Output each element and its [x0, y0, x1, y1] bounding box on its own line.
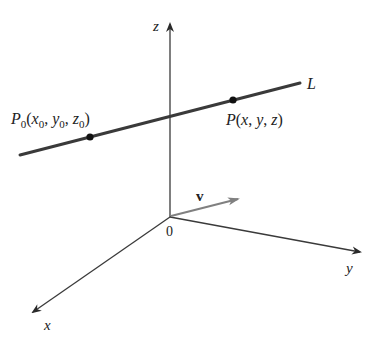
x-axis: [33, 217, 170, 312]
vector-v-arrow: [171, 199, 238, 216]
p0-name: P: [10, 110, 21, 127]
p-comma-1: ,: [248, 111, 256, 128]
line-L-label: L: [306, 75, 316, 92]
p0-close-paren: ): [85, 110, 90, 128]
p-x: x: [240, 111, 248, 128]
y-axis-label: y: [344, 260, 353, 276]
y-axis: [170, 217, 360, 252]
p0-comma-2: ,: [65, 110, 73, 127]
p0-comma-1: ,: [44, 110, 52, 127]
vector-v-label: v: [196, 188, 204, 204]
origin-label: 0: [166, 224, 173, 239]
x-axis-label: x: [43, 317, 51, 333]
p-comma-2: ,: [263, 111, 271, 128]
p-name: P: [225, 111, 236, 128]
p-close-paren: ): [278, 111, 283, 129]
line-in-space-diagram: z y x 0 L v P0(x0, y0, z0) P(x, y, z): [0, 0, 367, 337]
point-p0-dot: [86, 133, 93, 140]
diagram-canvas: z y x 0 L v P0(x0, y0, z0) P(x, y, z): [0, 0, 367, 337]
z-axis-label: z: [152, 18, 159, 34]
p0-x: x: [31, 110, 39, 127]
point-p-label: P(x, y, z): [225, 111, 283, 129]
point-p-dot: [229, 96, 236, 103]
point-p0-label: P0(x0, y0, z0): [10, 110, 90, 130]
